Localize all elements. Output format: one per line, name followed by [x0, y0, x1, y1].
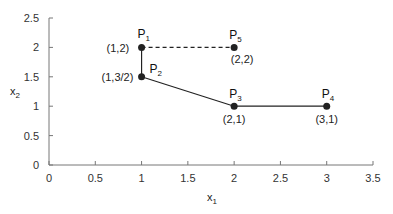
point-name-p5: P5	[229, 28, 242, 44]
point-coord-p3: (2,1)	[223, 113, 246, 125]
y-tick-label: 1.5	[24, 71, 39, 83]
x-tick-label: 1.5	[180, 172, 195, 184]
point-p1	[138, 44, 145, 51]
chart: 00.511.522.500.511.522.533.5x1x2P1(1,2)P…	[0, 0, 393, 214]
point-coord-p2: (1,3/2)	[102, 71, 134, 83]
x-tick-label: 3.5	[365, 172, 380, 184]
x-tick-label: 3	[324, 172, 330, 184]
point-coord-p4: (3,1)	[315, 113, 338, 125]
y-axis-label: x2	[10, 85, 21, 100]
point-p5	[231, 44, 238, 51]
x-axis-label: x1	[207, 191, 218, 206]
point-name-p4: P4	[322, 87, 335, 103]
y-tick-label: 1	[33, 100, 39, 112]
point-coord-p5: (2,2)	[231, 53, 254, 65]
point-p3	[231, 103, 238, 110]
point-name-p2: P2	[150, 62, 163, 78]
point-p4	[323, 103, 330, 110]
x-tick-label: 2	[231, 172, 237, 184]
y-tick-label: 2.5	[24, 12, 39, 24]
x-tick-label: 2.5	[273, 172, 288, 184]
point-coord-p1: (1,2)	[107, 42, 130, 54]
point-name-p1: P1	[138, 27, 151, 43]
x-tick-label: 1	[139, 172, 145, 184]
segment-P2-P3	[142, 77, 235, 106]
y-tick-label: 0	[33, 159, 39, 171]
y-tick-label: 0.5	[24, 130, 39, 142]
point-name-p3: P3	[229, 87, 242, 103]
point-p2	[138, 73, 145, 80]
x-tick-label: 0	[46, 172, 52, 184]
y-tick-label: 2	[33, 41, 39, 53]
x-tick-label: 0.5	[88, 172, 103, 184]
